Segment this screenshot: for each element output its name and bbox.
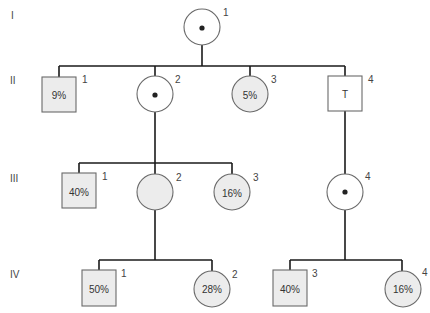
risk-percentage: 40% bbox=[69, 187, 89, 198]
individual-II1: 9% 1 bbox=[42, 74, 88, 112]
carrier-dot-icon bbox=[152, 92, 157, 97]
risk-percentage: 50% bbox=[89, 284, 109, 295]
individual-number: 1 bbox=[82, 74, 88, 85]
individual-IV3: 40% 3 bbox=[273, 268, 318, 306]
individual-II4: T 4 bbox=[328, 74, 374, 111]
individual-number: 3 bbox=[312, 268, 318, 279]
carrier-dot-icon bbox=[199, 25, 204, 30]
individual-number: 3 bbox=[253, 172, 259, 183]
risk-percentage: 9% bbox=[52, 90, 67, 101]
female-circle bbox=[137, 174, 173, 210]
individual-number: 1 bbox=[102, 171, 108, 182]
individual-number: 4 bbox=[368, 74, 374, 85]
carrier-dot-icon bbox=[342, 189, 347, 194]
individual-III2: 2 bbox=[137, 172, 182, 210]
risk-percentage: 40% bbox=[280, 284, 300, 295]
individual-number: 1 bbox=[223, 7, 229, 18]
risk-percentage: 16% bbox=[222, 188, 242, 199]
individual-IV1: 50% 1 bbox=[82, 268, 127, 306]
individual-III3: 16% 3 bbox=[214, 172, 259, 210]
generation-label-II: II bbox=[10, 75, 16, 86]
individual-number: 4 bbox=[365, 171, 371, 182]
individual-number: 2 bbox=[176, 172, 182, 183]
individual-II3: 5% 3 bbox=[232, 74, 277, 112]
individual-number: 1 bbox=[121, 268, 127, 279]
generation-label-I: I bbox=[11, 10, 14, 21]
individual-II2: 2 bbox=[137, 74, 181, 112]
shape-label: T bbox=[342, 89, 348, 100]
individual-number: 2 bbox=[175, 74, 181, 85]
individual-IV2: 28% 2 bbox=[194, 269, 238, 307]
individual-III4: 4 bbox=[327, 171, 371, 210]
individual-III1: 40% 1 bbox=[62, 171, 108, 208]
individual-number: 4 bbox=[422, 267, 428, 278]
generation-label-III: III bbox=[10, 173, 18, 184]
pedigree-diagram: I II III IV 1 9% bbox=[0, 0, 430, 313]
risk-percentage: 5% bbox=[243, 90, 258, 101]
individual-number: 3 bbox=[271, 74, 277, 85]
risk-percentage: 16% bbox=[393, 284, 413, 295]
risk-percentage: 28% bbox=[202, 284, 222, 295]
individual-IV4: 16% 4 bbox=[385, 267, 428, 307]
individual-number: 2 bbox=[232, 269, 238, 280]
individual-I1: 1 bbox=[184, 7, 229, 45]
generation-label-IV: IV bbox=[10, 269, 20, 280]
